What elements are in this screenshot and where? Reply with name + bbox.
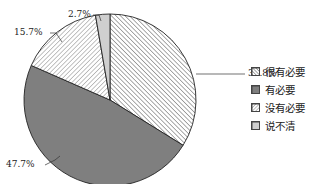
legend-swatch-icon [251, 121, 260, 130]
legend-label: 说不清 [265, 118, 295, 133]
legend-item-very-necessary: 很有必要 [251, 62, 305, 80]
slice-percent-label: 47.7% [6, 159, 35, 169]
legend-item-unnecessary: 没有必要 [251, 98, 305, 116]
slice-percent-label: 15.7% [14, 27, 43, 37]
legend-swatch-icon [251, 85, 260, 94]
legend-swatch-icon [251, 103, 260, 112]
legend: 很有必要 有必要 没有必要 说不清 [251, 62, 305, 134]
legend-item-necessary: 有必要 [251, 80, 305, 98]
pie-slices [24, 14, 196, 184]
legend-item-unclear: 说不清 [251, 116, 305, 134]
slice-percent-label: 2.7% [68, 9, 91, 19]
legend-swatch-icon [251, 67, 260, 76]
legend-label: 有必要 [265, 82, 295, 97]
legend-label: 很有必要 [265, 64, 305, 79]
legend-label: 没有必要 [265, 100, 305, 115]
